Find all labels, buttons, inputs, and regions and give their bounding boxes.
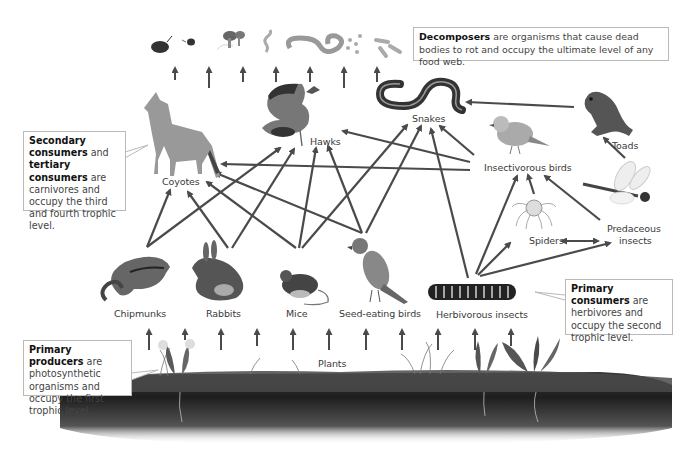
callout-primary-producers: Primary producers are photosynthetic org… [23,340,132,396]
callout-secondary-tertiary-consumers: Secondary consumers and tertiary consume… [23,131,126,211]
callout-primary-producers-title: Primary producers [29,344,84,367]
dragonfly-illustration [583,158,654,204]
label-rabbits: Rabbits [206,308,241,319]
spider-illustration [512,200,556,229]
food-web-diagram: Coyotes Hawks Snakes Toads Insectivorous… [0,0,687,456]
coyote-illustration [144,92,220,178]
label-spiders: Spiders [529,235,564,246]
rabbit-illustration [192,240,243,301]
label-insectivorous-birds: Insectivorous birds [484,162,572,173]
mouse-illustration [280,270,328,305]
seed-eating-bird-illustration [347,238,408,304]
label-hawks: Hawks [310,136,341,147]
callout-decomposers-title: Decomposers [419,31,490,42]
callout-secondary-and: and [88,147,109,158]
earthworm-icon [288,36,341,52]
beetle-icon [182,39,195,46]
callout-tertiary-title: tertiary consumers [29,159,88,182]
callout-decomposers: Decomposers are organisms that cause dea… [413,27,669,61]
bacteria-rod-icon [376,40,400,56]
label-seed-eating-birds: Seed-eating birds [339,308,421,319]
label-predaceous-insects-line1: Predaceous [607,223,661,234]
label-mice: Mice [286,308,308,319]
callout-primary-consumers: Primary consumers are herbivores and occ… [565,279,673,335]
caterpillar-illustration [428,284,516,300]
label-coyotes: Coyotes [162,176,200,187]
label-predaceous-insects-line2: insects [619,235,652,246]
bacteria-round-icon [346,34,362,54]
worm-icon [265,30,271,52]
chipmunk-illustration [102,257,170,300]
pill-bug-icon [151,36,172,53]
fungi-icon [217,31,245,50]
toad-illustration [585,92,633,136]
label-chipmunks: Chipmunks [114,308,166,319]
insectivorous-bird-illustration [489,116,550,154]
label-toads: Toads [612,140,638,151]
label-snakes: Snakes [412,113,445,124]
callout-secondary-title: Secondary consumers [29,135,88,158]
label-herbivorous-insects: Herbivorous insects [436,309,528,320]
snake-illustration [380,82,462,110]
callout-primary-consumers-title: Primary consumers [571,283,630,306]
label-plants: Plants [318,358,346,369]
